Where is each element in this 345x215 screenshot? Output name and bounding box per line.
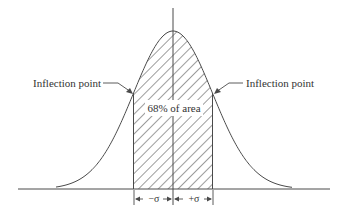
inflection-point-label-left: Inflection point (33, 77, 101, 89)
inflection-leader-right (216, 83, 243, 92)
inflection-point-label-right: Inflection point (246, 77, 314, 89)
arrow-right-icon (167, 197, 172, 202)
arrow-left-icon (135, 197, 140, 202)
minus-sigma-label: −σ (148, 193, 160, 204)
area-label: 68% of area (147, 102, 200, 114)
inflection-leader-left (103, 83, 131, 92)
normal-distribution-diagram: 68% of area Inflection point Inflection … (0, 0, 345, 215)
arrow-right-icon (207, 197, 212, 202)
arrow-left-icon (174, 197, 179, 202)
plus-sigma-label: +σ (188, 193, 200, 204)
